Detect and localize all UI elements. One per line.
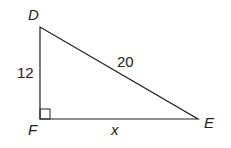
right-angle-marker — [40, 109, 50, 119]
vertex-label-f: F — [28, 121, 38, 138]
vertex-label-d: D — [28, 6, 39, 23]
vertex-label-e: E — [204, 114, 215, 131]
side-label-fe: x — [110, 121, 119, 138]
triangle-diagram: D F E 12 20 x — [0, 0, 231, 148]
side-label-df: 12 — [17, 64, 34, 81]
side-label-de: 20 — [117, 53, 134, 70]
triangle-def — [40, 27, 198, 119]
